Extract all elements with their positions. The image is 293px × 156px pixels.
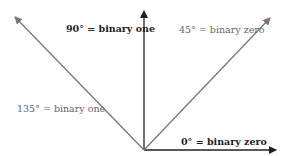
vector-135deg-arrow: [15, 17, 144, 150]
label-0deg: 0° = binary zero: [181, 136, 267, 147]
vector-45deg-arrow: [144, 18, 270, 150]
label-45deg: 45° = binary zero: [179, 24, 265, 35]
phase-diagram: 90° = binary one 45° = binary zero 135° …: [0, 0, 293, 156]
label-90deg: 90° = binary one: [66, 23, 155, 34]
label-135deg: 135° = binary one: [17, 103, 106, 114]
